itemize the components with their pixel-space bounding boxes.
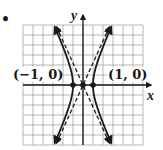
- hyperbola-graph: • y x (−1, 0) (1, 0): [0, 0, 163, 150]
- point-marker: [80, 82, 86, 88]
- labels: • y x (−1, 0) (1, 0): [1, 8, 154, 103]
- x-axis-label: x: [146, 88, 154, 103]
- vertex-right-label: (1, 0): [108, 67, 147, 82]
- point-marker: [70, 82, 76, 88]
- vertex-left-label: (−1, 0): [13, 67, 63, 82]
- point-marker: [90, 82, 96, 88]
- y-axis-label: y: [69, 8, 78, 23]
- bullet: •: [1, 11, 10, 27]
- vertex-points: [70, 82, 96, 88]
